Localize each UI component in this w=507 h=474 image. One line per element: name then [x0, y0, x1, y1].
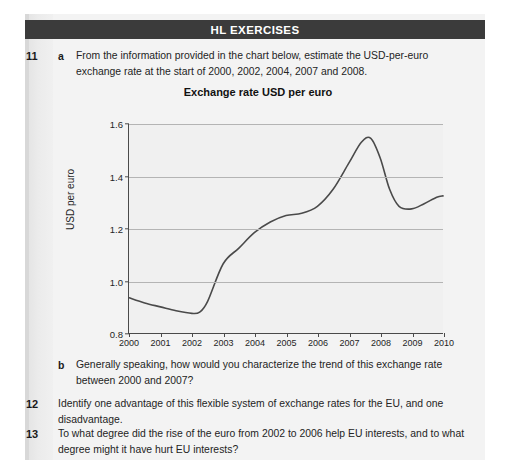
chart-x-tick-label: 2001 [150, 338, 170, 348]
section-header-title: HL EXERCISES [211, 24, 300, 36]
exercise-number-11: 11 [26, 50, 38, 62]
chart-y-tick-label: 1.4 [110, 171, 123, 182]
chart-gridline [129, 282, 443, 283]
chart-x-tick-mark [413, 333, 414, 337]
chart-x-tick-mark [129, 333, 130, 337]
chart-y-tick-mark [125, 176, 129, 177]
chart-x-tick-label: 2007 [339, 338, 359, 348]
chart-x-tick-label: 2008 [371, 338, 391, 348]
chart-x-tick-label: 2003 [213, 338, 233, 348]
chart-y-axis-label: USD per euro [65, 169, 76, 230]
exercise-12-text: Identify one advantage of this flexible … [58, 396, 470, 427]
chart-gridline [129, 124, 443, 125]
chart-x-tick-label: 2005 [276, 338, 296, 348]
chart-y-tick-label: 1.6 [110, 119, 123, 130]
chart-series-path [129, 137, 443, 313]
page: HL EXERCISES 11 a From the information p… [0, 0, 507, 474]
chart-x-tick-mark [224, 333, 225, 337]
exercise-13-text: To what degree did the rise of the euro … [58, 426, 470, 457]
exercise-number-13: 13 [26, 428, 38, 440]
chart-x-tick-label: 2009 [402, 338, 422, 348]
chart-x-tick-mark [381, 333, 382, 337]
page-gutter [25, 14, 53, 460]
exercise-11-part-a-text: From the information provided in the cha… [76, 48, 474, 79]
chart-x-tick-label: 2006 [308, 338, 328, 348]
chart-x-tick-label: 2002 [182, 338, 202, 348]
chart-x-tick-label: 2000 [119, 338, 139, 348]
chart-x-tick-mark [192, 333, 193, 337]
chart-gridline [129, 177, 443, 178]
chart-x-tick-mark [287, 333, 288, 337]
chart-x-tick-mark [255, 333, 256, 337]
exercise-11-part-b-text: Generally speaking, how would you charac… [76, 357, 474, 388]
exercise-number-12: 12 [26, 398, 38, 410]
chart-gridline [129, 229, 443, 230]
exercise-11-part-a-label: a [58, 50, 64, 62]
chart-title: Exchange rate USD per euro [53, 86, 463, 98]
chart-y-tick-label: 1.2 [110, 224, 123, 235]
section-header-bar: HL EXERCISES [25, 20, 485, 39]
page-gutter-edge [25, 14, 29, 460]
exercise-11-part-b-label: b [58, 359, 64, 371]
chart-y-tick-mark [125, 281, 129, 282]
chart-y-tick-mark [125, 228, 129, 229]
chart-y-tick-label: 1.0 [110, 276, 123, 287]
chart-x-tick-label: 2010 [434, 338, 454, 348]
exchange-rate-chart: Exchange rate USD per euro USD per euro … [53, 80, 463, 355]
chart-x-tick-mark [318, 333, 319, 337]
chart-x-tick-mark [350, 333, 351, 337]
chart-x-tick-mark [444, 333, 445, 337]
chart-y-tick-mark [125, 123, 129, 124]
chart-x-tick-mark [161, 333, 162, 337]
chart-x-tick-label: 2004 [245, 338, 265, 348]
chart-plot-area: 0.81.01.21.41.62000200120022003200420052… [128, 124, 443, 334]
